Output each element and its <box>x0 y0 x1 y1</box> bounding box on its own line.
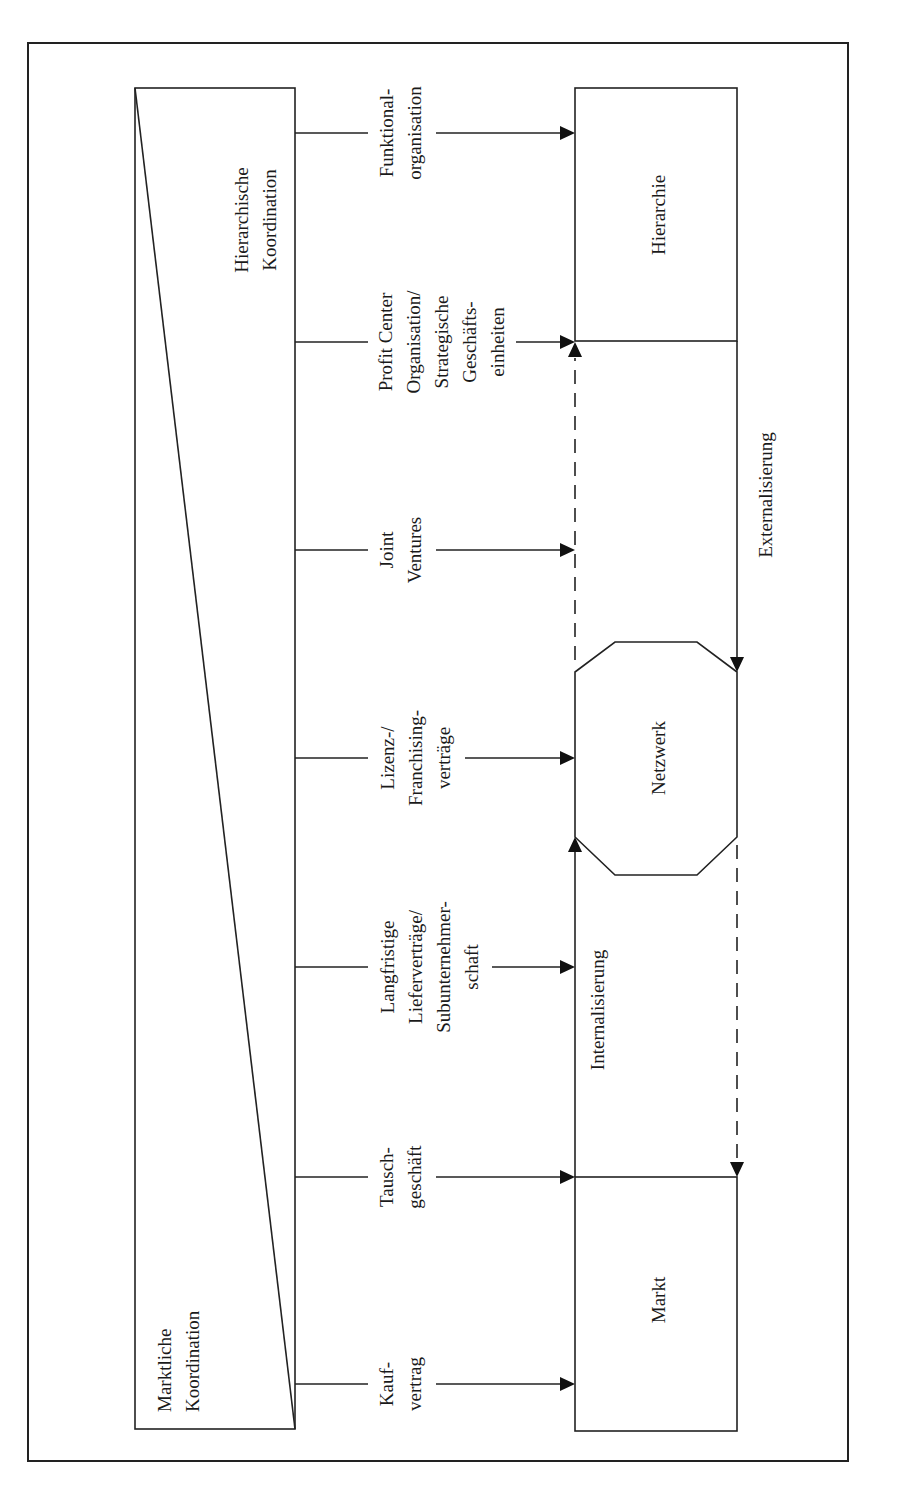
network-octagon: Netzwerk <box>575 642 737 875</box>
form-label-line: verträge <box>433 727 454 789</box>
arrowhead-down-icon <box>730 657 744 672</box>
arrowhead-right-icon <box>560 1170 575 1184</box>
network-to-hierarchy-dashed <box>568 342 582 660</box>
form-label-line: schaft <box>461 944 482 990</box>
form-label-line: Funktional- <box>376 89 397 178</box>
form-label-line: Geschäfts- <box>459 301 480 382</box>
externalization-label: Externalisierung <box>755 432 776 558</box>
wedge-diagonal <box>135 88 295 1429</box>
market-label: Markt <box>648 1276 669 1323</box>
form-label-line: Ventures <box>404 517 425 583</box>
market-box: Markt <box>575 1177 737 1431</box>
form-profit-center: Profit Center Organisation/ Strategische… <box>295 290 575 394</box>
form-label-line: Tausch- <box>376 1147 397 1207</box>
form-label-line: Lizenz-/ <box>377 726 398 790</box>
wedge-top-label-line1: Hierarchische <box>231 167 252 273</box>
form-label-line: Kauf- <box>376 1362 397 1406</box>
arrowhead-down-icon <box>730 1162 744 1177</box>
form-label-line: Langfristige <box>377 921 398 1014</box>
arrowhead-right-icon <box>560 960 575 974</box>
form-joint-ventures: Joint Ventures <box>295 517 575 583</box>
form-label-line: Franchising- <box>405 710 426 806</box>
arrowhead-right-icon <box>560 1377 575 1391</box>
form-kaufvertrag: Kauf- vertrag <box>295 1357 575 1411</box>
form-label-line: Joint <box>376 531 397 569</box>
form-label-line: Subunternehmer- <box>433 901 454 1033</box>
wedge-top-label-line2: Koordination <box>259 169 280 271</box>
network-label: Netzwerk <box>648 721 669 795</box>
arrowhead-right-icon <box>560 126 575 140</box>
form-langfristige-liefervertraege: Langfristige Lieferverträge/ Subunterneh… <box>295 901 575 1033</box>
market-hierarchy-diagram: Hierarchische Koordination Marktliche Ko… <box>0 0 904 1489</box>
form-funktionalorganisation: Funktional- organisation <box>295 86 575 180</box>
wedge-bottom-label-line1: Marktliche <box>154 1329 175 1412</box>
internalization-flow: Internalisierung <box>568 837 608 1177</box>
form-label-line: geschäft <box>404 1145 425 1209</box>
coordination-wedge: Hierarchische Koordination Marktliche Ko… <box>135 88 295 1429</box>
internalization-label: Internalisierung <box>587 949 608 1070</box>
externalization-flow: Externalisierung <box>730 341 776 672</box>
arrowhead-right-icon <box>560 543 575 557</box>
form-label-line: Strategische <box>431 296 452 389</box>
arrowhead-right-icon <box>560 751 575 765</box>
form-label-line: Organisation/ <box>403 290 424 394</box>
wedge-bottom-label-line2: Koordination <box>182 1310 203 1412</box>
form-label-line: vertrag <box>404 1357 425 1411</box>
form-label-line: organisation <box>404 86 425 180</box>
form-label-line: Lieferverträge/ <box>405 909 426 1024</box>
network-to-market-dashed <box>730 845 744 1177</box>
form-label-line: einheiten <box>487 307 508 377</box>
arrowhead-up-icon <box>568 837 582 852</box>
form-tauschgeschaeft: Tausch- geschäft <box>295 1145 575 1209</box>
hierarchy-label: Hierarchie <box>648 175 669 255</box>
hierarchy-box: Hierarchie <box>575 88 737 341</box>
form-label-line: Profit Center <box>375 292 396 391</box>
form-lizenz-franchising: Lizenz-/ Franchising- verträge <box>295 710 575 806</box>
